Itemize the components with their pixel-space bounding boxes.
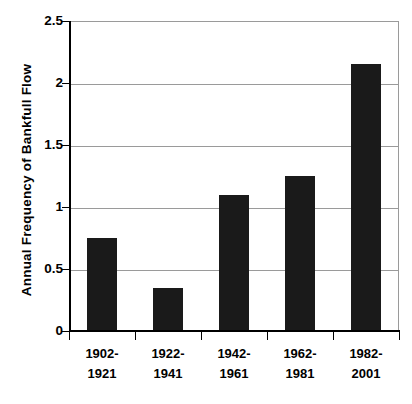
x-axis-tick-mark [201,332,202,340]
x-axis-tick-label: 1962-1981 [267,344,333,384]
x-axis-tick-mark [69,332,70,340]
y-axis-tick-label: 1 [26,200,63,214]
y-axis-tick-mark [62,269,70,270]
x-axis-tick-labels: 1902-19211922-19411942-19611962-19811982… [69,344,399,400]
y-axis-tick-labels: 00.511.522.5 [26,0,63,404]
y-axis-line [69,21,71,332]
y-axis-tick-label: 0 [26,324,63,338]
x-axis-tick-label: 1982-2001 [333,344,399,384]
bar [219,195,249,331]
x-axis-tick-mark [135,332,136,340]
y-axis-tick-mark [62,145,70,146]
x-axis-tick-mark [333,332,334,340]
bar [87,238,117,331]
y-axis-tick-label: 2.5 [26,14,63,28]
bar [351,64,381,331]
x-axis-tick-mark [399,332,400,340]
x-axis-tick-mark [267,332,268,340]
y-axis-tick-mark [62,21,70,22]
bars-layer [69,21,399,331]
x-axis-tick-label: 1922-1941 [135,344,201,384]
y-axis-tick-mark [62,207,70,208]
y-axis-tick-label: 2 [26,76,63,90]
bar [153,288,183,331]
bar-chart: Annual Frequency of Bankfull Flow 00.511… [0,0,412,404]
y-axis-tick-label: 0.5 [26,262,63,276]
x-axis-line [69,330,400,332]
y-axis-tick-label: 1.5 [26,138,63,152]
x-axis-tick-label: 1902-1921 [69,344,135,384]
x-axis-tick-label: 1942-1961 [201,344,267,384]
y-axis-tick-mark [62,83,70,84]
bar [285,176,315,331]
